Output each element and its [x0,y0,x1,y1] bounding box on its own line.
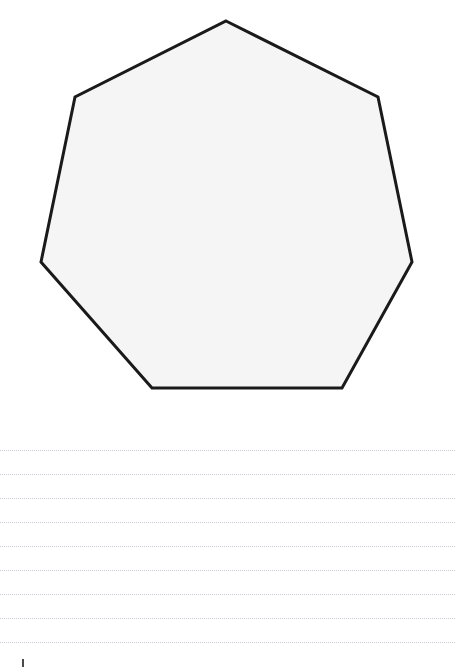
writing-line [0,522,455,523]
registration-mark [22,659,24,667]
shape-area [0,0,455,420]
heptagon-svg [0,0,455,420]
writing-line [0,570,455,571]
writing-line [0,474,455,475]
writing-line [0,546,455,547]
writing-line [0,618,455,619]
writing-line [0,498,455,499]
heptagon-shape [41,21,412,388]
writing-line [0,450,455,451]
worksheet-page [0,0,455,667]
writing-line [0,642,455,643]
writing-line [0,594,455,595]
writing-lines-area [0,420,455,667]
